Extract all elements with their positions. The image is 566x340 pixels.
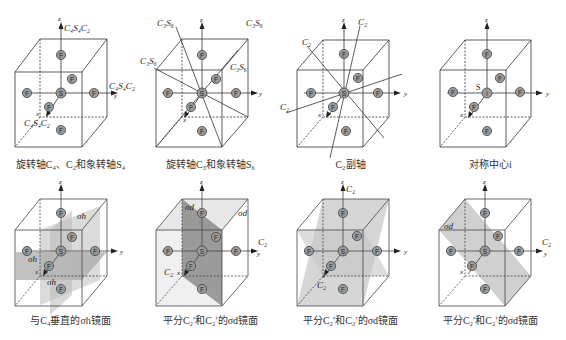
c2-x-label: C₂ xyxy=(164,267,173,277)
c3-s6-label-1: C₃S₆ xyxy=(157,18,174,28)
sigma-h-label-3: σh xyxy=(47,277,56,287)
svg-text:F: F xyxy=(485,128,489,135)
svg-text:F: F xyxy=(483,210,487,217)
y-axis-label: y xyxy=(545,90,550,98)
svg-text:F: F xyxy=(341,286,345,293)
z-axis-label: z xyxy=(199,178,203,186)
svg-text:S: S xyxy=(59,90,64,97)
svg-text:S: S xyxy=(59,248,64,255)
x-axis-label: x xyxy=(459,268,464,276)
svg-text:S: S xyxy=(200,248,205,255)
svg-text:F: F xyxy=(59,210,63,217)
c2-label-b: C₂ xyxy=(302,37,311,47)
svg-text:F: F xyxy=(376,90,380,97)
y-arrow-icon xyxy=(251,91,258,96)
svg-text:F: F xyxy=(449,248,453,255)
z-axis-label: z xyxy=(58,178,62,186)
c2-y-label: C₂ xyxy=(258,237,267,247)
sigma-d-label-1: σd xyxy=(444,221,453,231)
panel-c2-subaxis: z C₂ C₂ C₂ y x F F F F F F S C₂副轴 xyxy=(280,0,421,170)
svg-text:F: F xyxy=(356,75,360,82)
y-axis-label: y xyxy=(119,248,124,256)
y-arrow-icon xyxy=(111,249,118,254)
caption-c2-subaxis: C₂副轴 xyxy=(280,156,421,171)
c3-s6-label-4: C₃S₆ xyxy=(230,62,247,72)
sigma-d-label-2: σd xyxy=(238,208,247,218)
panel-inversion-center: z y x S F F F F F F i 对称中心i xyxy=(420,0,561,170)
sigma-h-label-1: σh xyxy=(77,211,86,221)
y-axis-symmetry-label: C₄S₄C₂ xyxy=(109,81,135,91)
c2-z-label: C₂ xyxy=(346,184,355,194)
caption-sigma-d-2: 平分C₂′和C₂′的σd镜面 xyxy=(280,312,421,327)
svg-text:F: F xyxy=(59,127,63,134)
svg-text:F: F xyxy=(342,51,346,58)
svg-text:F: F xyxy=(93,248,97,255)
svg-text:F: F xyxy=(329,263,333,270)
svg-text:F: F xyxy=(59,52,63,59)
svg-text:F: F xyxy=(200,52,204,59)
svg-text:F: F xyxy=(234,248,238,255)
svg-text:F: F xyxy=(496,233,500,240)
svg-text:F: F xyxy=(234,90,238,97)
svg-text:F: F xyxy=(344,128,348,135)
z-axis-label: z xyxy=(482,178,486,186)
svg-text:F: F xyxy=(214,76,218,83)
y-axis-label: y xyxy=(403,248,408,256)
svg-text:F: F xyxy=(309,90,313,97)
panel-sigma-d-3: z y C₂ x σd F F F F F F S 平分C₂′和C₂′的σd镜面 xyxy=(420,170,561,340)
svg-text:F: F xyxy=(25,248,29,255)
svg-text:F: F xyxy=(483,286,487,293)
svg-text:F: F xyxy=(25,90,29,97)
cube-diagram-c4: z C₄S₄C₂ C₄S₄C₂ y x C₄S₄C₂ F F F F F F S xyxy=(0,0,141,170)
svg-text:F: F xyxy=(200,210,204,217)
x-axis-label: x xyxy=(317,111,322,119)
z-axis-label: z xyxy=(199,16,203,24)
svg-text:F: F xyxy=(518,89,522,96)
c3-s6-label-3: C₃S₆ xyxy=(140,56,157,66)
svg-text:F: F xyxy=(517,248,521,255)
sigma-h-label-2: σh xyxy=(28,254,37,264)
x-axis-label: x xyxy=(459,111,464,119)
panel-c4-c2-s4: z C₄S₄C₂ C₄S₄C₂ y x C₄S₄C₂ F F F F F F S… xyxy=(0,0,141,170)
svg-text:F: F xyxy=(451,89,455,96)
x-axis-label: x xyxy=(35,110,40,118)
svg-text:F: F xyxy=(47,263,51,270)
c2-y-label: C₂ xyxy=(542,237,551,247)
svg-text:F: F xyxy=(47,104,51,111)
svg-text:F: F xyxy=(200,286,204,293)
z-axis-label: z xyxy=(340,178,344,186)
svg-text:S: S xyxy=(200,90,205,97)
caption-c3-s6: 旋转轴C₃和象转轴S₆ xyxy=(140,156,281,171)
z-axis-label: z xyxy=(341,16,345,24)
c3-s6-label-2: C₃S₆ xyxy=(246,18,263,28)
cube-diagram-inversion: z y x S F F F F F F i xyxy=(420,0,561,170)
svg-text:F: F xyxy=(166,248,170,255)
svg-text:F: F xyxy=(200,128,204,135)
svg-text:F: F xyxy=(92,90,96,97)
svg-text:F: F xyxy=(498,75,502,82)
caption-sigma-d-1: 平分C₂′和C₂′的σd镜面 xyxy=(140,312,281,327)
svg-text:F: F xyxy=(470,263,474,270)
svg-text:S: S xyxy=(483,248,488,255)
svg-text:F: F xyxy=(189,263,193,270)
svg-text:F: F xyxy=(307,248,311,255)
y-axis-label: y xyxy=(256,250,261,258)
sigma-d-label-1: σd xyxy=(185,202,194,212)
cube-diagram-c2: z C₂ C₂ C₂ y x F F F F F F S xyxy=(280,0,421,170)
z-axis-label: z xyxy=(484,16,488,24)
y-arrow-icon xyxy=(394,91,401,96)
z-axis-label: z xyxy=(57,15,61,23)
y-arrow-icon xyxy=(536,249,543,254)
svg-text:F: F xyxy=(70,76,74,83)
svg-text:F: F xyxy=(70,234,74,241)
svg-text:F: F xyxy=(189,104,193,111)
panel-sigma-d-1: z y x σd σd C₂ C₂ F F F F F F S 平分C₂′和C₂… xyxy=(140,170,281,340)
svg-text:S: S xyxy=(341,248,346,255)
svg-text:F: F xyxy=(331,104,335,111)
z-axis-symmetry-label: C₄S₄C₂ xyxy=(64,23,90,33)
cube-diagram-c3: z C₃S₆ C₃S₆ C₃S₆ C₃S₆ y x F F F F F F S xyxy=(140,0,281,170)
svg-text:F: F xyxy=(59,286,63,293)
caption-sigma-d-3: 平分C₂′和C₂′的σd镜面 xyxy=(420,312,561,327)
svg-text:F: F xyxy=(355,233,359,240)
y-axis-label: y xyxy=(258,90,263,98)
